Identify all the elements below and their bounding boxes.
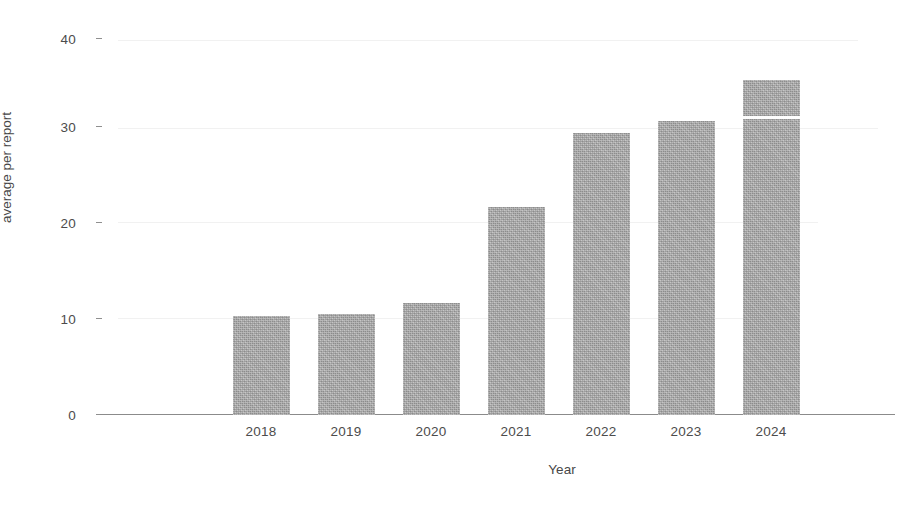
bar-2019[interactable]	[318, 314, 375, 415]
x-axis-title: Year	[105, 462, 914, 477]
bar-2021[interactable]	[488, 207, 545, 415]
x-tick-label-2020: 2020	[391, 424, 471, 439]
x-tick-label-2019: 2019	[306, 424, 386, 439]
y-tick-label-0: 0	[30, 408, 76, 423]
bar-2022[interactable]	[573, 133, 630, 415]
x-tick-label-2023: 2023	[646, 424, 726, 439]
y-tick-label-40: 40	[30, 32, 76, 47]
x-tick-label-2021: 2021	[476, 424, 556, 439]
bar-chart-figure: 40 30 20 10 0 average per report 2018 20…	[0, 0, 914, 506]
y-tick-label-30: 30	[30, 120, 76, 135]
bar-2024[interactable]	[743, 80, 800, 415]
y-tick-label-10: 10	[30, 312, 76, 327]
x-tick-label-2022: 2022	[561, 424, 641, 439]
y-axis-title: average per report	[0, 58, 14, 278]
plot-area	[100, 26, 895, 415]
bar-2024-segment-divider	[743, 116, 800, 119]
x-tick-label-2018: 2018	[221, 424, 301, 439]
x-tick-label-2024: 2024	[731, 424, 811, 439]
bar-2020[interactable]	[403, 303, 460, 415]
bar-2018[interactable]	[233, 316, 290, 415]
bar-2023[interactable]	[658, 121, 715, 415]
y-tick-label-20: 20	[30, 216, 76, 231]
